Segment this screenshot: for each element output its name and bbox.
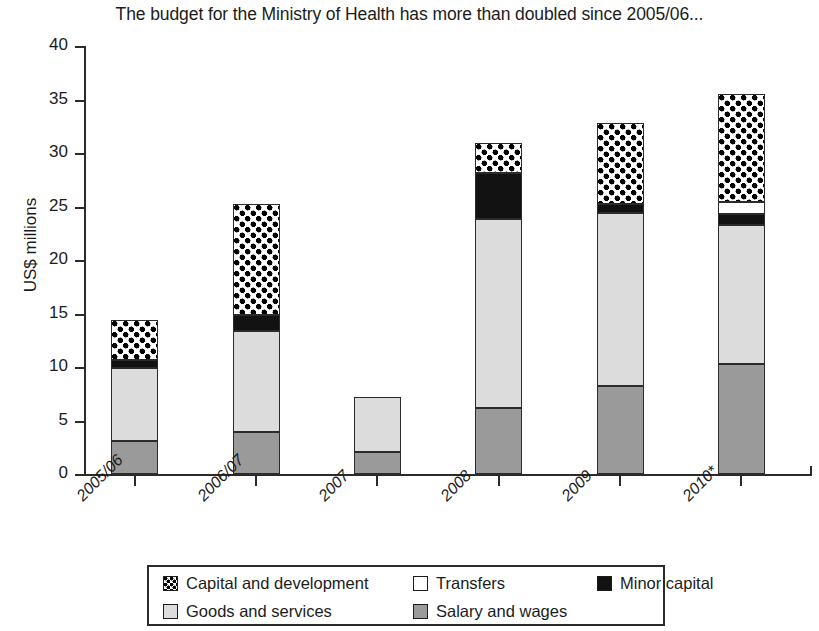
y-axis-tick-label: 25 [49,196,68,216]
chart-title: The budget for the Ministry of Health ha… [0,4,819,25]
bar-segment-salary [354,452,401,474]
y-axis-tick: 40 [75,46,84,48]
y-axis-tick-label: 40 [49,35,68,55]
x-axis-tick [498,475,500,486]
y-axis-tick: 10 [75,367,84,369]
x-axis-tick [740,475,742,486]
y-axis-tick: 30 [75,153,84,155]
bar-segment-goods [233,331,280,433]
x-axis-tick-label: 2010* [679,462,721,504]
x-axis-tick-label: 2006/07 [194,451,248,505]
y-axis-tick: 20 [75,260,84,262]
bar-segment-goods [354,397,401,452]
bar-segment-salary [718,364,765,474]
bar-segment-capital [475,143,522,173]
bar-segment-minor [111,360,158,369]
bar-segment-goods [718,225,765,364]
legend-row-1: Capital and developmentTransfersMinor ca… [149,569,663,597]
y-axis-tick-label: 20 [49,249,68,269]
bar-segment-minor [597,204,644,213]
x-axis-tick-label: 2008 [437,467,475,505]
x-axis-tick-label: 2005/06 [73,451,127,505]
x-axis-tick-label: 2009 [558,467,596,505]
legend-swatch-salary-icon [413,604,428,619]
bar-segment-capital [111,320,158,360]
x-axis-tick [376,475,378,486]
y-axis-tick-label: 15 [49,303,68,323]
bar-2010- [718,94,765,474]
legend-item-goods[interactable]: Goods and services [163,597,332,625]
legend-label: Minor capital [620,574,714,593]
y-axis-tick: 35 [75,100,84,102]
bar-segment-capital [233,204,280,314]
bar-segment-minor [233,315,280,331]
x-axis-tick [619,475,621,486]
bar-segment-capital [597,123,644,204]
y-axis-tick: 5 [75,421,84,423]
bar-segment-minor [475,173,522,219]
y-axis-tick: 25 [75,207,84,209]
legend-item-capital[interactable]: Capital and development [163,569,369,597]
x-axis-end-cap [810,466,812,476]
legend-item-transfers[interactable]: Transfers [413,569,505,597]
legend-label: Transfers [436,574,505,593]
y-axis-tick-label: 10 [49,356,68,376]
legend-label: Salary and wages [436,602,567,621]
legend-item-minor[interactable]: Minor capital [597,569,714,597]
bar-segment-transfers [718,202,765,214]
bar-segment-goods [475,219,522,407]
y-axis-line [84,46,86,475]
bar-segment-minor [718,214,765,225]
x-axis-tick [255,475,257,486]
legend-label: Capital and development [186,574,369,593]
bar-2008 [475,143,522,474]
y-axis-tick-label: 35 [49,89,68,109]
legend-swatch-transfers-icon [413,576,428,591]
legend-swatch-minor-icon [597,576,612,591]
y-axis-tick: 15 [75,314,84,316]
legend-label: Goods and services [186,602,332,621]
legend-row-2: Goods and servicesSalary and wages [149,597,663,625]
legend-item-salary[interactable]: Salary and wages [413,597,567,625]
bar-2009 [597,123,644,474]
chart-legend: Capital and developmentTransfersMinor ca… [147,565,665,626]
bar-2006-07 [233,204,280,474]
legend-swatch-capital-icon [163,576,178,591]
bar-2007 [354,397,401,474]
x-axis-tick [134,475,136,486]
bar-2005-06 [111,320,158,474]
bar-segment-capital [718,94,765,202]
y-axis-tick-label: 5 [59,410,68,430]
bar-segment-goods [111,368,158,441]
bar-segment-salary [597,386,644,474]
legend-swatch-goods-icon [163,604,178,619]
x-axis-tick-label: 2007 [315,467,353,505]
bar-segment-salary [475,408,522,474]
plot-area: 0510152025303540 2005/062006/07200720082… [84,46,812,474]
y-axis-tick-label: 0 [59,463,68,483]
bar-segment-goods [597,213,644,386]
y-axis-tick-label: 30 [49,142,68,162]
budget-stacked-bar-chart: The budget for the Ministry of Health ha… [0,0,819,631]
y-axis-label: US$ millions [21,135,41,355]
y-axis-tick: 0 [75,474,84,476]
